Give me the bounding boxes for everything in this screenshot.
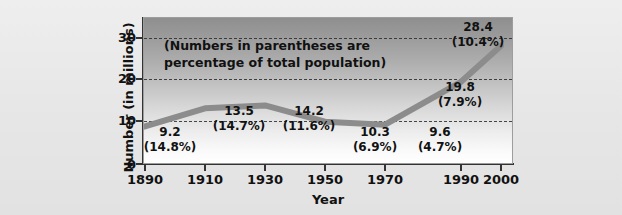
x-tick-mark-1930: [264, 165, 266, 171]
x-tick-mark-1970: [384, 165, 386, 171]
data-label-1990: 19.8 (7.9%): [438, 80, 482, 110]
data-value-1910: 13.5: [213, 104, 266, 119]
data-percent-1990: (7.9%): [438, 95, 482, 110]
data-percent-2000: (10.4%): [452, 35, 505, 50]
data-label-1910: 13.5 (14.7%): [213, 104, 266, 134]
data-value-1890: 9.2: [144, 125, 197, 140]
data-percent-1890: (14.8%): [144, 140, 197, 155]
data-label-1930: 14.2 (11.6%): [283, 104, 336, 134]
data-label-2000: 28.4 (10.4%): [452, 20, 505, 50]
x-tick-mark-1910: [204, 165, 206, 171]
x-tick-label-1930: 1930: [247, 173, 283, 186]
data-value-1950: 10.3: [353, 125, 397, 140]
x-tick-mark-1990: [460, 165, 462, 171]
y-tick-label-30: 30: [110, 31, 136, 44]
data-value-1930: 14.2: [283, 104, 336, 119]
data-label-1950: 10.3 (6.9%): [353, 125, 397, 155]
x-tick-label-2000: 2000: [483, 173, 519, 186]
x-tick-mark-1890: [144, 165, 146, 171]
x-tick-label-1990: 1990: [443, 173, 479, 186]
chart-figure: Number (in millions) 0 10 20 30 (Numbers…: [0, 0, 622, 215]
data-percent-1910: (14.7%): [213, 119, 266, 134]
x-tick-label-1950: 1950: [307, 173, 343, 186]
y-tick-label-0: 0: [110, 158, 136, 171]
data-percent-1970: (4.7%): [418, 140, 462, 155]
data-percent-1950: (6.9%): [353, 140, 397, 155]
data-percent-1930: (11.6%): [283, 119, 336, 134]
x-tick-label-1910: 1910: [187, 173, 223, 186]
x-tick-mark-1950: [324, 165, 326, 171]
plot-area: (Numbers in parentheses are percentage o…: [143, 17, 513, 164]
data-label-1970: 9.6 (4.7%): [418, 125, 462, 155]
x-tick-label-1890: 1890: [127, 173, 163, 186]
data-label-1890: 9.2 (14.8%): [144, 125, 197, 155]
y-tick-label-20: 20: [110, 72, 136, 85]
data-value-1990: 19.8: [438, 80, 482, 95]
x-axis-title: Year: [312, 192, 344, 207]
data-value-2000: 28.4: [452, 20, 505, 35]
y-tick-label-10: 10: [110, 114, 136, 127]
data-value-1970: 9.6: [418, 125, 462, 140]
x-tick-label-1970: 1970: [367, 173, 403, 186]
x-tick-mark-2000: [500, 165, 502, 171]
